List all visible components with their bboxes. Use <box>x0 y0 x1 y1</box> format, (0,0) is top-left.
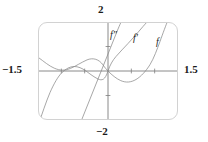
y-axis-min-label: −2 <box>96 126 108 137</box>
derivative-graph-figure: 2 −2 −1.5 1.5 f″ f′ f <box>0 0 208 142</box>
curve-label-f-double-prime: f″ <box>110 30 117 40</box>
curve-label-f-prime: f′ <box>133 33 138 43</box>
y-axis-max-label: 2 <box>98 4 104 15</box>
curve-f <box>38 22 168 82</box>
x-axis-max-label: 1.5 <box>184 64 198 75</box>
curve-label-f: f <box>156 37 159 47</box>
x-axis-min-label: −1.5 <box>2 64 22 75</box>
